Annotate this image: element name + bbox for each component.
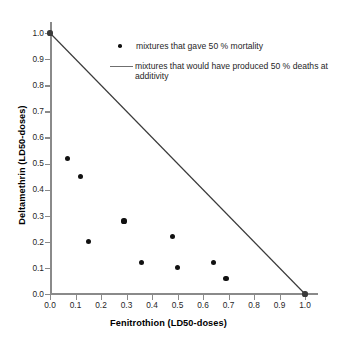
chart-figure: 0.00.10.20.30.40.50.60.70.80.91.00.00.10… (0, 0, 337, 339)
x-axis-title: Fenitrothion (LD50-doses) (0, 318, 337, 328)
data-point (211, 260, 216, 265)
legend-item-mortality: mixtures that gave 50 % mortality (108, 41, 336, 52)
reference-line-endpoint (47, 30, 52, 35)
legend-item-label: mixtures that would have produced 50 % d… (135, 61, 336, 82)
y-axis-tick-label: 1.0 (4, 29, 44, 37)
line-swatch-icon (110, 66, 133, 67)
data-point (121, 218, 126, 223)
x-axis-tick-label: 1.0 (290, 301, 320, 309)
filled-circle-icon (118, 44, 122, 48)
chart-legend: mixtures that gave 50 % mortality mixtur… (108, 41, 336, 91)
legend-line-key (108, 61, 136, 71)
reference-line-endpoint (302, 291, 307, 296)
legend-item-additivity: mixtures that would have produced 50 % d… (108, 61, 336, 82)
y-axis-tick-label: 0.1 (4, 264, 44, 272)
data-point (223, 276, 228, 281)
legend-item-label: mixtures that gave 50 % mortality (136, 41, 263, 52)
y-axis-tick-label: 0.0 (4, 290, 44, 298)
y-axis-title: Deltamethrin (LD50-doses) (17, 75, 27, 255)
y-axis-tick-label: 0.9 (4, 55, 44, 63)
legend-marker-key (108, 41, 136, 51)
